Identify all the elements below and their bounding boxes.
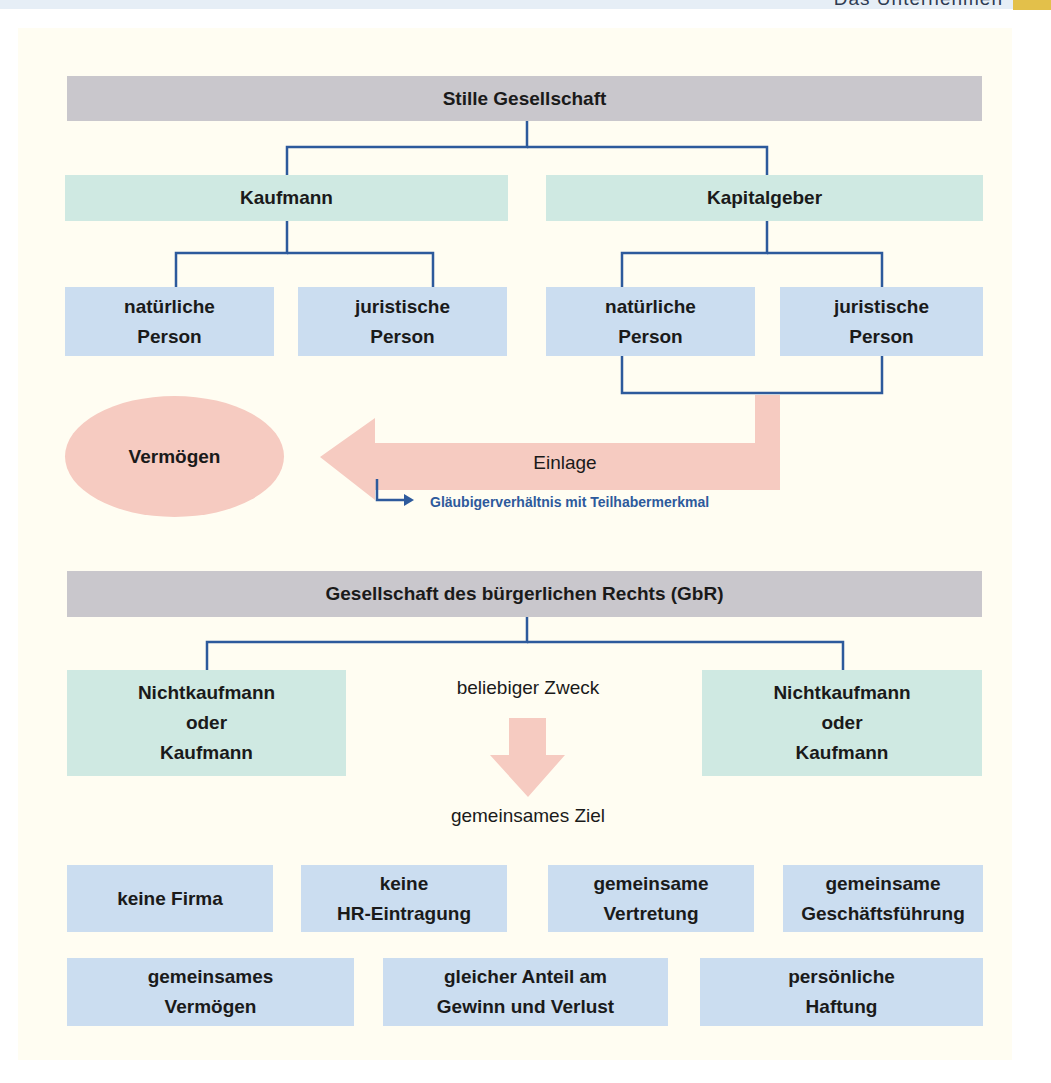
box-line: Kaufmann <box>160 738 253 768</box>
box-line: keine <box>380 869 429 899</box>
box-line: oder <box>186 708 227 738</box>
box-line: Person <box>618 322 682 352</box>
einlage-label: Einlage <box>495 452 635 474</box>
box-line: Vermögen <box>165 992 257 1022</box>
box-line: Gewinn und Verlust <box>437 992 614 1022</box>
gbr-title: Gesellschaft des bürgerlichen Rechts (Gb… <box>67 571 982 617</box>
stille-gesellschaft-title: Stille Gesellschaft <box>67 76 982 121</box>
feature-keine-hr-eintragung: keine HR-Eintragung <box>301 865 507 932</box>
kapitalgeber-juristische-person: juristische Person <box>780 287 983 356</box>
feature-keine-firma: keine Firma <box>67 865 273 932</box>
box-line: Person <box>370 322 434 352</box>
box-line: HR-Eintragung <box>337 899 471 929</box>
einlage-arrow <box>320 395 780 500</box>
box-line: Nichtkaufmann <box>138 678 275 708</box>
kaufmann-box: Kaufmann <box>65 175 508 221</box>
box-line: keine Firma <box>117 884 223 914</box>
box-line: oder <box>821 708 862 738</box>
box-line: gemeinsame <box>825 869 940 899</box>
box-line: Kaufmann <box>796 738 889 768</box>
kaufmann-juristische-person: juristische Person <box>298 287 507 356</box>
box-line: gemeinsames <box>148 962 274 992</box>
goal-label: gemeinsames Ziel <box>428 805 628 827</box>
kapitalgeber-natuerliche-person: natürliche Person <box>546 287 755 356</box>
box-line: natürliche <box>124 292 215 322</box>
box-line: Nichtkaufmann <box>773 678 910 708</box>
gbr-right-partner: Nichtkaufmann oder Kaufmann <box>702 670 982 776</box>
box-line: Vertretung <box>603 899 698 929</box>
box-line: Haftung <box>806 992 878 1022</box>
feature-gleicher-anteil: gleicher Anteil am Gewinn und Verlust <box>383 958 668 1026</box>
box-line: juristische <box>834 292 929 322</box>
purpose-label: beliebiger Zweck <box>428 677 628 699</box>
box-line: Person <box>849 322 913 352</box>
feature-gemeinsame-geschaeftsfuehrung: gemeinsame Geschäftsführung <box>783 865 983 932</box>
gbr-left-partner: Nichtkaufmann oder Kaufmann <box>67 670 346 776</box>
box-line: gemeinsame <box>593 869 708 899</box>
kapitalgeber-box: Kapitalgeber <box>546 175 983 221</box>
glaeubiger-note: Gläubigerverhältnis mit Teilhabermerkmal <box>430 494 709 510</box>
feature-gemeinsames-vermoegen: gemeinsames Vermögen <box>67 958 354 1026</box>
box-line: persönliche <box>788 962 895 992</box>
vermoegen-oval: Vermögen <box>65 396 284 517</box>
box-line: Person <box>137 322 201 352</box>
feature-persoenliche-haftung: persönliche Haftung <box>700 958 983 1026</box>
purpose-down-arrow <box>490 718 565 797</box>
feature-gemeinsame-vertretung: gemeinsame Vertretung <box>548 865 754 932</box>
box-line: Geschäftsführung <box>801 899 965 929</box>
box-line: gleicher Anteil am <box>444 962 607 992</box>
kaufmann-natuerliche-person: natürliche Person <box>65 287 274 356</box>
box-line: juristische <box>355 292 450 322</box>
box-line: natürliche <box>605 292 696 322</box>
